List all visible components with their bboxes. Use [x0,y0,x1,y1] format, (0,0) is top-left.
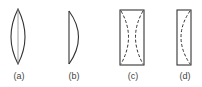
figure-a-biconvex-lens [11,9,25,64]
figure-a-label: (a) [4,71,34,81]
figure-b-plano-convex-lens [69,11,79,64]
figure-c-rectangle-dashed-biconcave [120,10,144,65]
figure-c-label: (c) [118,71,148,81]
figure-d-rectangle-dashed-concave [177,10,191,65]
figure-d-label: (d) [170,71,200,81]
figure-b-label: (b) [59,71,89,81]
